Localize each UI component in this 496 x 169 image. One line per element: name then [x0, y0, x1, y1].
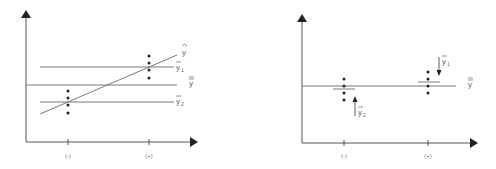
svg-text:1: 1 [181, 67, 184, 73]
right-label-ybar1: y 1 [442, 56, 450, 67]
left-tick-label-minus: (-) [65, 153, 71, 159]
svg-text:y: y [468, 80, 472, 89]
left-tick-label-plus: (+) [145, 153, 153, 159]
right-tick-label-plus: (+) [424, 153, 432, 159]
right-ybar2-arrow-icon [353, 96, 358, 116]
left-label-ybar1: y 1 [176, 62, 184, 73]
left-label-yhat: y [182, 44, 187, 57]
svg-text:1: 1 [447, 61, 450, 67]
svg-text:y: y [442, 57, 446, 66]
right-dots-minus [343, 78, 346, 102]
svg-text:y: y [176, 63, 180, 72]
left-label-grand-mean: y [189, 77, 194, 88]
svg-text:2: 2 [363, 112, 366, 118]
right-label-grand-mean: y [468, 78, 473, 89]
left-y-axis-arrow-icon [21, 10, 31, 18]
svg-text:2: 2 [181, 101, 184, 107]
left-label-ybar2: y 2 [176, 96, 184, 107]
diagram-canvas: (-) (+) y y 1 y [0, 0, 496, 169]
right-label-ybar2: y 2 [358, 107, 366, 118]
svg-text:y: y [176, 97, 180, 106]
right-x-axis-arrow-icon [470, 138, 478, 148]
svg-text:y: y [189, 79, 193, 88]
left-panel: (-) (+) y y 1 y [21, 10, 198, 159]
right-panel: (-) (+) y 2 [297, 14, 478, 159]
left-x-axis-arrow-icon [190, 137, 198, 147]
right-ybar1-arrow-icon [437, 57, 442, 76]
svg-text:y: y [358, 108, 362, 117]
right-dots-plus [427, 71, 430, 95]
right-tick-label-minus: (-) [341, 153, 347, 159]
right-y-axis-arrow-icon [297, 14, 307, 22]
svg-text:y: y [182, 48, 186, 57]
left-regression-line [40, 55, 177, 114]
